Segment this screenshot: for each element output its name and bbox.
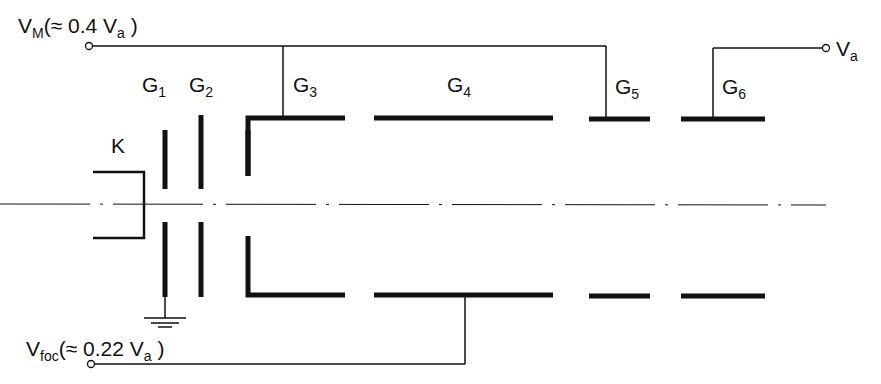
vm-wire (92, 46, 606, 118)
cathode-k (93, 172, 144, 238)
g4-electrode (374, 118, 553, 295)
ground-symbol (144, 297, 186, 327)
cathode-label: K (111, 135, 125, 156)
g6-electrode (681, 119, 765, 296)
g1-label: G1 (142, 74, 166, 99)
g3-label: G3 (293, 74, 317, 99)
g2-label: G2 (189, 74, 213, 99)
g5-electrode (589, 119, 650, 296)
vm-terminal (86, 43, 93, 50)
va-label: Va (836, 38, 858, 63)
vm-label: VM(≈ 0.4 Va ) (18, 15, 138, 40)
beam-axis (0, 204, 826, 205)
g4-label: G4 (447, 74, 471, 99)
vfoc-label: Vfoc(≈ 0.22 Va ) (26, 338, 164, 363)
g6-label: G6 (722, 76, 746, 101)
electron-gun-diagram: VM(≈ 0.4 Va ) Va Vfoc(≈ 0.22 Va ) K G1 G… (0, 0, 881, 384)
diagram-lines (0, 0, 881, 384)
g3-electrode (248, 118, 345, 295)
g5-label: G5 (615, 76, 639, 101)
va-terminal (823, 45, 830, 52)
